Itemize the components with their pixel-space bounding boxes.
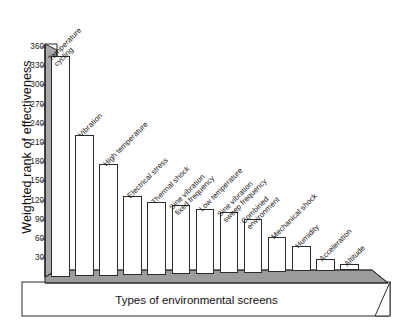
y-tick-330: 330 <box>22 62 44 70</box>
y-tick-210: 210 <box>22 139 44 147</box>
y-tick-270: 270 <box>22 101 44 109</box>
y-tick-180: 180 <box>22 158 44 166</box>
bar-4 <box>147 202 166 275</box>
bar-10 <box>292 246 311 271</box>
bar-2 <box>99 164 118 276</box>
bar-6 <box>196 209 215 274</box>
category-label-2: High temperature <box>102 121 150 169</box>
bar-0 <box>51 56 70 277</box>
x-axis-title: Types of environmental screens <box>0 294 393 306</box>
y-tick-240: 240 <box>22 120 44 128</box>
plot-area: Temperature cyclingVibrationHigh tempera… <box>48 42 383 280</box>
y-tick-90: 90 <box>22 216 44 224</box>
y-tick-300: 300 <box>22 81 44 89</box>
y-tick-60: 60 <box>22 235 44 243</box>
bar-9 <box>268 237 287 272</box>
bar-3 <box>123 196 142 276</box>
bar-1 <box>75 135 94 276</box>
y-tick-360: 360 <box>22 43 44 51</box>
y-tick-120: 120 <box>22 197 44 205</box>
y-axis-tick-labels: 360 330 300 270 240 210 180 150 120 90 6… <box>20 0 44 327</box>
y-tick-150: 150 <box>22 177 44 185</box>
y-tick-30: 30 <box>22 254 44 262</box>
bar-chart: Weighted rank of effectiveness 360 330 3… <box>0 0 393 327</box>
